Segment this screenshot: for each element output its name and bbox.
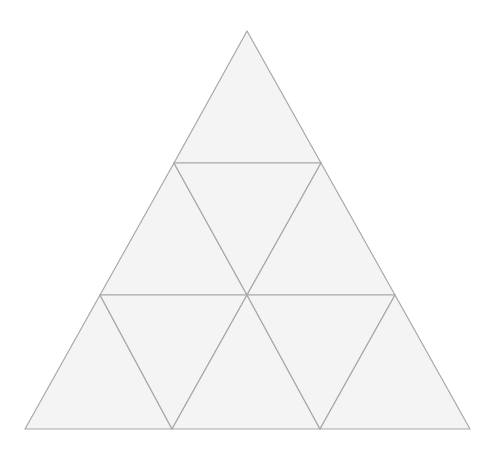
triangle-group xyxy=(25,31,470,429)
triangle-svg xyxy=(0,0,489,449)
sub-triangle-up xyxy=(174,31,321,163)
triangle-diagram xyxy=(0,0,489,449)
